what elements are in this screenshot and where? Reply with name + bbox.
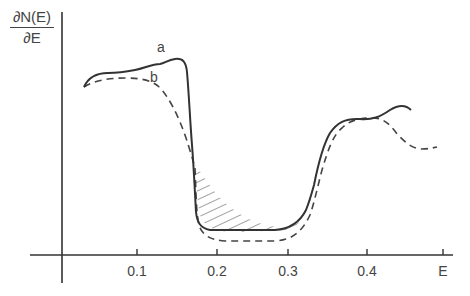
series-a-label: a xyxy=(157,39,165,55)
x-axis-label: E xyxy=(438,263,447,279)
series-a-line xyxy=(84,59,411,230)
chart-plot xyxy=(0,0,470,296)
x-tick-label-0-2: 0.2 xyxy=(207,263,226,279)
hatched-region xyxy=(195,165,312,232)
x-tick-label-0-4: 0.4 xyxy=(357,263,376,279)
series-b-line xyxy=(84,78,437,241)
series-b-label: b xyxy=(150,69,158,85)
x-tick-label-0-3: 0.3 xyxy=(278,263,297,279)
x-ticks xyxy=(137,249,443,255)
x-tick-label-0-1: 0.1 xyxy=(127,263,146,279)
